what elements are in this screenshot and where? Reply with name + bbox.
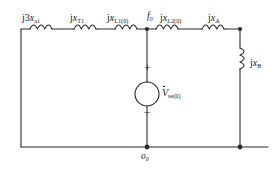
circuit-schematic-svg xyxy=(0,0,273,173)
inductor-coil-shunt-b xyxy=(240,48,244,69)
inductor-coil-3 xyxy=(115,25,137,29)
inductor-coil-1 xyxy=(30,25,52,29)
inductor-coil-5 xyxy=(202,25,224,29)
circuit-diagram: j3xa1 jxT1 jxL1(0) jxL2(0) jxA jxB f0 o0… xyxy=(0,0,273,173)
junction-dot-o0 xyxy=(145,145,150,150)
voltage-source-circle xyxy=(135,82,159,106)
junction-dot-top-right xyxy=(238,27,242,31)
junction-dot-f0 xyxy=(145,27,149,31)
junction-dot-bottom-right xyxy=(238,145,243,150)
inductor-coil-2 xyxy=(74,25,96,29)
inductor-coil-4 xyxy=(156,25,178,29)
